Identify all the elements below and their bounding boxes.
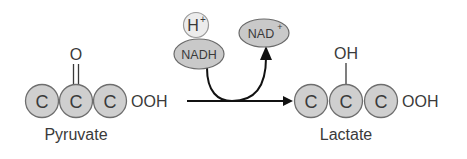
nad-plus-charge: + [277, 22, 282, 32]
lactate-hydroxyl: OH [334, 45, 358, 62]
lactate-molecule: OH C C C OOH Lactate [295, 45, 439, 143]
pyruvate-label: Pyruvate [44, 126, 107, 143]
pyruvate-carbon-2-label: C [70, 92, 83, 112]
lactate-carbon-3-label: C [375, 92, 388, 112]
pyruvate-carbon-3-label: C [104, 92, 117, 112]
cofactor-arrowhead [260, 46, 272, 60]
lactate-carbon-2-label: C [340, 92, 353, 112]
reaction-arrow-group: H + NADH NAD + [174, 13, 291, 102]
pyruvate-molecule: O C C C OOH Pyruvate [26, 46, 168, 143]
nadh-label: NADH [181, 48, 216, 62]
lactate-carbon-1-label: C [305, 92, 318, 112]
pyruvate-oxygen: O [70, 46, 82, 63]
proton-label: H [187, 17, 199, 34]
lactate-carboxyl: OOH [402, 93, 438, 110]
proton-charge: + [200, 14, 206, 25]
reaction-diagram: O C C C OOH Pyruvate H + NADH NAD + OH C… [0, 0, 467, 159]
pyruvate-carboxyl: OOH [131, 93, 167, 110]
pyruvate-carbon-1-label: C [36, 92, 49, 112]
nad-plus-label: NAD [248, 27, 274, 41]
lactate-label: Lactate [320, 126, 373, 143]
